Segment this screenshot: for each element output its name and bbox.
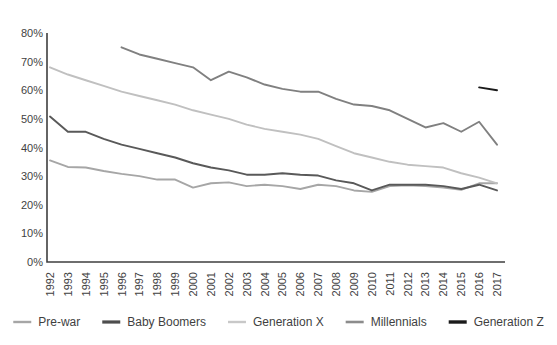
series-line-generation-x — [50, 67, 497, 183]
x-axis-tick-label: 2012 — [402, 272, 414, 296]
x-axis-tick-label: 2005 — [276, 272, 288, 296]
x-axis-tick-label: 2002 — [223, 272, 235, 296]
x-axis-tick-labels: 1992199319941995199619971998199920002001… — [44, 272, 503, 296]
y-axis-tick-label: 70% — [21, 56, 43, 68]
line-chart: 0%10%20%30%40%50%60%70%80% 1992199319941… — [0, 0, 557, 345]
axis-line — [47, 33, 505, 262]
x-axis-tick-label: 1993 — [62, 272, 74, 296]
x-axis-tick-label: 2000 — [187, 272, 199, 296]
chart-axes — [47, 33, 505, 262]
x-axis-tick-label: 1996 — [116, 272, 128, 296]
y-axis-tick-label: 30% — [21, 170, 43, 182]
legend-label-baby-boomers: Baby Boomers — [127, 315, 206, 329]
y-axis-tick-label: 40% — [21, 142, 43, 154]
y-axis-tick-label: 50% — [21, 113, 43, 125]
y-axis-tick-label: 60% — [21, 84, 43, 96]
x-axis-tick-label: 2013 — [419, 272, 431, 296]
series-line-pre-war — [50, 160, 497, 191]
x-axis-tick-label: 2006 — [294, 272, 306, 296]
x-axis-tick-label: 1997 — [133, 272, 145, 296]
legend-label-generation-z: Generation Z — [474, 315, 544, 329]
x-axis-tick-label: 2004 — [259, 272, 271, 296]
chart-container: 0%10%20%30%40%50%60%70%80% 1992199319941… — [0, 0, 557, 345]
legend-label-pre-war: Pre-war — [38, 315, 80, 329]
x-axis-tick-label: 2007 — [312, 272, 324, 296]
x-axis-tick-label: 2014 — [437, 272, 449, 296]
legend-label-generation-x: Generation X — [253, 315, 324, 329]
x-axis-tick-label: 2016 — [473, 272, 485, 296]
series-line-millennials — [122, 47, 497, 144]
legend-label-millennials: Millennials — [371, 315, 427, 329]
y-axis-tick-label: 20% — [21, 199, 43, 211]
y-axis-tick-labels: 0%10%20%30%40%50%60%70%80% — [21, 27, 43, 268]
y-axis-tick-label: 80% — [21, 27, 43, 39]
x-axis-tick-label: 1998 — [151, 272, 163, 296]
series-line-generation-z — [479, 87, 497, 90]
x-axis-tick-label: 2011 — [384, 272, 396, 296]
y-axis-tick-label: 10% — [21, 227, 43, 239]
series-line-baby-boomers — [50, 117, 497, 191]
x-axis-tick-label: 1994 — [80, 272, 92, 296]
x-axis-tick-label: 2017 — [491, 272, 503, 296]
x-axis-tick-label: 2015 — [455, 272, 467, 296]
x-axis-tick-label: 1995 — [98, 272, 110, 296]
x-axis-tick-label: 2009 — [348, 272, 360, 296]
x-axis-tick-label: 2001 — [205, 272, 217, 296]
x-axis-tick-label: 1999 — [169, 272, 181, 296]
series-lines — [50, 47, 497, 192]
x-axis-tick-label: 1992 — [44, 272, 56, 296]
x-axis-tick-label: 2008 — [330, 272, 342, 296]
x-axis-tick-label: 2010 — [366, 272, 378, 296]
chart-legend: Pre-warBaby BoomersGeneration XMillennia… — [13, 315, 543, 329]
x-axis-tick-label: 2003 — [241, 272, 253, 296]
y-axis-tick-label: 0% — [27, 256, 43, 268]
